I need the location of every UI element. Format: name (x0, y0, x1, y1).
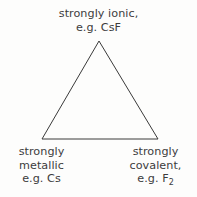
vertex-label-metallic-line3: e.g. Cs (0, 172, 83, 186)
vertex-label-metallic-line1: strongly (0, 145, 83, 159)
vertex-label-covalent-line3: e.g. F2 (114, 172, 197, 189)
triangle-outline (42, 41, 158, 139)
vertex-label-metallic-line2: metallic (0, 159, 83, 173)
vertex-label-ionic: strongly ionic, e.g. CsF (0, 7, 197, 34)
vertex-label-covalent-subscript: 2 (169, 178, 174, 187)
vertex-label-metallic: strongly metallic e.g. Cs (0, 145, 83, 186)
vertex-label-covalent-line2: covalent, (114, 159, 197, 173)
vertex-label-ionic-line1: strongly ionic, (0, 7, 197, 21)
vertex-label-covalent-line1: strongly (114, 145, 197, 159)
bonding-triangle-diagram: strongly ionic, e.g. CsF strongly metall… (0, 0, 197, 197)
vertex-label-covalent-formula: e.g. F (137, 172, 168, 185)
vertex-label-covalent: strongly covalent, e.g. F2 (114, 145, 197, 189)
vertex-label-ionic-line2: e.g. CsF (0, 21, 197, 35)
